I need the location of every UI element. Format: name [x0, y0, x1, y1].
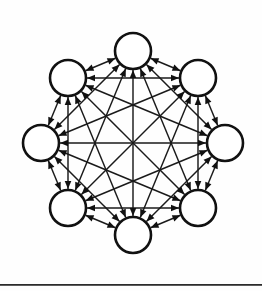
arrowhead-icon — [212, 117, 218, 126]
arrowhead-icon — [212, 161, 218, 170]
arrowhead-icon — [107, 222, 116, 228]
arrowhead-icon — [195, 181, 202, 189]
graph-node-n7[interactable] — [23, 125, 59, 161]
arrowhead-icon — [65, 97, 72, 105]
figure-root — [0, 0, 262, 291]
arrowhead-icon — [55, 182, 61, 191]
arrowhead-icon — [199, 130, 208, 136]
arrowhead-icon — [59, 130, 68, 136]
arrowhead-icon — [130, 70, 137, 78]
arrowhead-icon — [130, 208, 137, 216]
arrowhead-icon — [172, 215, 181, 221]
arrowhead-icon — [120, 69, 126, 78]
bottom-horizontal-rule — [0, 284, 262, 286]
arrowhead-icon — [198, 140, 206, 147]
arrowhead-icon — [140, 69, 146, 78]
arrowhead-icon — [171, 205, 179, 212]
arrowhead-icon — [86, 65, 95, 71]
arrowhead-icon — [172, 65, 181, 71]
arrowhead-icon — [205, 96, 211, 105]
graph-node-n1[interactable] — [115, 33, 151, 69]
arrowhead-icon — [60, 140, 68, 147]
arrowhead-icon — [199, 150, 208, 156]
arrowhead-icon — [86, 215, 95, 221]
graph-node-n5[interactable] — [115, 217, 151, 253]
graph-node-n8[interactable] — [50, 60, 86, 96]
graph-node-n3[interactable] — [207, 125, 243, 161]
graph-node-n4[interactable] — [180, 190, 216, 226]
arrowhead-icon — [151, 222, 160, 228]
arrowhead-icon — [171, 75, 179, 82]
arrowhead-icon — [120, 209, 126, 218]
arrowhead-icon — [87, 75, 95, 82]
complete-graph-diagram — [0, 0, 262, 291]
arrowhead-icon — [48, 117, 54, 126]
arrowhead-icon — [195, 97, 202, 105]
arrowhead-icon — [65, 181, 72, 189]
arrowhead-icon — [151, 58, 160, 64]
graph-node-n2[interactable] — [180, 60, 216, 96]
arrowhead-icon — [59, 150, 68, 156]
arrowhead-icon — [107, 58, 116, 64]
arrowhead-icon — [205, 182, 211, 191]
arrowhead-icon — [55, 96, 61, 105]
arrowhead-icon — [140, 209, 146, 218]
arrowhead-icon — [87, 205, 95, 212]
graph-node-n6[interactable] — [50, 190, 86, 226]
arrowhead-icon — [48, 161, 54, 170]
